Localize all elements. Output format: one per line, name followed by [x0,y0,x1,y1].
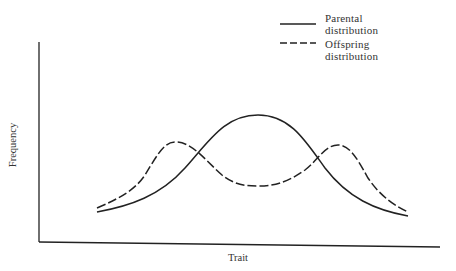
chart-canvas [0,0,456,271]
legend-offspring-line1: Offspring [325,38,378,50]
x-axis [39,242,440,247]
legend-item-offspring: Offspring distribution [325,38,378,62]
x-axis-label: Trait [228,252,248,264]
offspring-distribution-curve [97,142,408,212]
legend-parental-line2: distribution [325,24,378,36]
legend-parental-line1: Parental [325,12,378,24]
legend-offspring-line2: distribution [325,50,378,62]
y-axis-label: Frequency [7,123,18,167]
legend-item-parental: Parental distribution [325,12,378,36]
